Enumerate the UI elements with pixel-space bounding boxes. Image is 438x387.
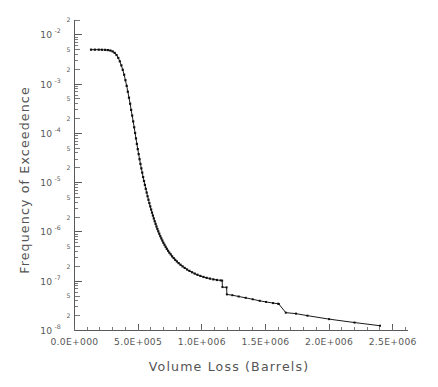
data-point [114, 52, 116, 54]
data-point [231, 294, 233, 296]
data-point [194, 272, 196, 274]
data-point [120, 64, 122, 66]
data-point [188, 270, 190, 272]
svg-text:10: 10 [40, 177, 52, 188]
data-point [138, 158, 140, 160]
exceedence-curve-line [91, 50, 380, 326]
x-tick-label: 1.0E+006 [178, 336, 226, 347]
data-point [379, 325, 381, 327]
data-point [141, 172, 143, 174]
data-point [265, 301, 267, 303]
x-tick-label: 0.0E+000 [50, 336, 98, 347]
data-point [109, 49, 111, 51]
data-point [128, 97, 130, 99]
data-point [131, 114, 133, 116]
data-point [127, 91, 129, 93]
data-series-group [90, 49, 381, 327]
data-point [166, 248, 168, 250]
y-minor-tick-label: 2 [67, 16, 71, 23]
data-point [90, 49, 92, 51]
exceedence-chart: 10-210-310-410-510-610-710-8 25252525252… [0, 0, 438, 387]
data-point [167, 250, 169, 252]
data-point [212, 278, 214, 280]
data-point [147, 199, 149, 201]
data-point [259, 300, 261, 302]
x-axis-ticks [75, 324, 406, 331]
data-point [206, 277, 208, 279]
data-point [148, 202, 150, 204]
data-point [149, 205, 151, 207]
data-point [153, 217, 155, 219]
data-point [136, 143, 138, 145]
y-tick-label: 10-4 [40, 126, 61, 139]
y-minor-tick-label: 5 [67, 194, 71, 201]
y-axis-title: Frequency of Exceedence [17, 86, 32, 274]
data-point [157, 230, 159, 232]
y-tick-label: 10-8 [40, 323, 61, 336]
data-point [245, 297, 247, 299]
data-point [117, 57, 119, 59]
svg-text:10: 10 [40, 128, 52, 139]
exceedence-curve-markers [90, 49, 381, 327]
svg-text:10: 10 [40, 29, 52, 40]
y-minor-tick-label: 2 [67, 66, 71, 73]
x-axis-title: Volume Loss (Barrels) [149, 359, 309, 374]
data-point [184, 267, 186, 269]
data-point [272, 302, 274, 304]
y-minor-tick-label: 5 [67, 95, 71, 102]
svg-text:10: 10 [40, 79, 52, 90]
data-point [163, 244, 165, 246]
y-minor-tick-label: 2 [67, 164, 71, 171]
data-point [133, 126, 135, 128]
data-point [115, 54, 117, 56]
data-point [178, 262, 180, 264]
data-point [226, 286, 228, 288]
data-point [151, 211, 153, 213]
data-point [139, 163, 141, 165]
data-point [328, 318, 330, 320]
y-tick-label: 10-2 [40, 27, 61, 40]
data-point [162, 242, 164, 244]
data-point [107, 49, 109, 51]
svg-text:-7: -7 [55, 274, 61, 281]
data-point [179, 264, 181, 266]
data-point [191, 271, 193, 273]
data-point [158, 233, 160, 235]
svg-text:10: 10 [40, 276, 52, 287]
data-point [146, 195, 148, 197]
y-minor-tick-label: 5 [67, 243, 71, 250]
data-point [138, 153, 140, 155]
y-minor-tick-label: 5 [67, 145, 71, 152]
y-axis-minor-tick-labels: 2525252525252 [67, 16, 71, 319]
y-minor-tick-label: 5 [67, 46, 71, 53]
data-point [156, 228, 158, 230]
data-point [209, 278, 211, 280]
data-point [306, 315, 308, 317]
data-point [285, 312, 287, 314]
data-point [101, 49, 103, 51]
data-point [123, 74, 125, 76]
data-point [144, 184, 146, 186]
data-point [155, 225, 157, 227]
x-tick-label: 1.5E+006 [241, 336, 289, 347]
x-tick-label: 5.0E+005 [114, 336, 162, 347]
y-tick-label: 10-7 [40, 274, 61, 287]
data-point [146, 191, 148, 193]
data-point [145, 188, 147, 190]
y-minor-tick-label: 2 [67, 214, 71, 221]
data-point [137, 148, 139, 150]
data-point [135, 137, 137, 139]
data-point [221, 286, 223, 288]
data-point [165, 246, 167, 248]
data-point [216, 279, 218, 281]
data-point [132, 120, 134, 122]
data-point [202, 276, 204, 278]
x-tick-label: 2.5E+006 [369, 336, 417, 347]
data-point [152, 214, 154, 216]
data-point [130, 109, 132, 111]
data-point [181, 265, 183, 267]
chart-figure: 10-210-310-410-510-610-710-8 25252525252… [0, 0, 438, 387]
data-point [238, 295, 240, 297]
y-axis-tick-labels: 10-210-310-410-510-610-710-8 [40, 27, 61, 336]
y-minor-tick-label: 5 [67, 292, 71, 299]
